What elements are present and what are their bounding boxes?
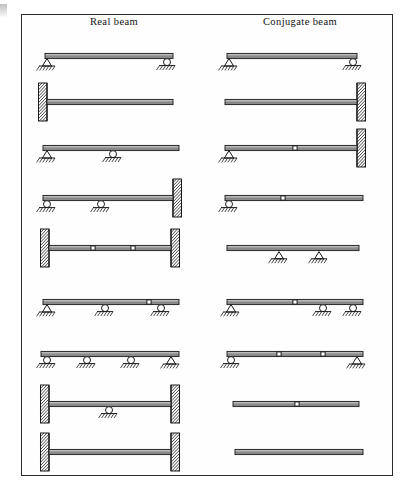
real-beam-diagram	[21, 432, 207, 480]
real-beam-cell	[21, 282, 207, 330]
beam-row-list	[21, 14, 393, 476]
conjugate-beam-cell	[207, 36, 393, 84]
conjugate-beam-cell	[207, 384, 393, 432]
conjugate-beam-cell	[207, 228, 393, 276]
real-beam-diagram	[21, 334, 207, 382]
conjugate-beam-cell	[207, 334, 393, 382]
beam-row	[21, 36, 393, 84]
real-beam-cell	[21, 228, 207, 276]
conjugate-beam-diagram	[207, 178, 393, 226]
real-beam-diagram	[21, 36, 207, 84]
page-edge-artifact	[0, 4, 7, 18]
conjugate-beam-cell	[207, 128, 393, 176]
beam-row	[21, 384, 393, 432]
conjugate-beam-cell	[207, 178, 393, 226]
real-beam-cell	[21, 82, 207, 130]
conjugate-beam-diagram	[207, 36, 393, 84]
real-beam-diagram	[21, 384, 207, 432]
conjugate-beam-diagram	[207, 282, 393, 330]
real-beam-cell	[21, 384, 207, 432]
conjugate-beam-cell	[207, 282, 393, 330]
real-beam-diagram	[21, 228, 207, 276]
conjugate-beam-diagram	[207, 128, 393, 176]
conjugate-beam-diagram	[207, 228, 393, 276]
figure-page: Real beam Conjugate beam	[0, 0, 407, 493]
real-beam-diagram	[21, 128, 207, 176]
real-beam-cell	[21, 128, 207, 176]
real-beam-cell	[21, 178, 207, 226]
real-beam-cell	[21, 334, 207, 382]
beam-row	[21, 334, 393, 382]
real-beam-cell	[21, 36, 207, 84]
conjugate-beam-cell	[207, 432, 393, 480]
beam-row	[21, 228, 393, 276]
beam-row	[21, 432, 393, 480]
conjugate-beam-diagram	[207, 432, 393, 480]
real-beam-diagram	[21, 282, 207, 330]
conjugate-beam-cell	[207, 82, 393, 130]
real-beam-diagram	[21, 82, 207, 130]
real-beam-diagram	[21, 178, 207, 226]
conjugate-beam-diagram	[207, 384, 393, 432]
beam-row	[21, 282, 393, 330]
conjugate-beam-diagram	[207, 82, 393, 130]
beam-row	[21, 128, 393, 176]
real-beam-cell	[21, 432, 207, 480]
beam-row	[21, 178, 393, 226]
conjugate-beam-diagram	[207, 334, 393, 382]
beam-row	[21, 82, 393, 130]
